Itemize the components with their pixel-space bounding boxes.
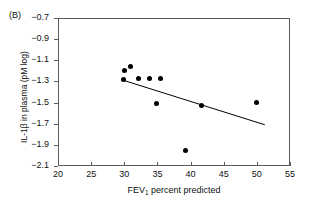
regression-line xyxy=(0,0,330,203)
data-point xyxy=(122,68,127,73)
data-point xyxy=(128,64,133,69)
data-point xyxy=(136,76,141,81)
data-point xyxy=(147,76,152,81)
data-layer xyxy=(0,0,330,203)
figure-panel-b: (B) IL-1β in plasma (pM log) FEV1 percen… xyxy=(0,0,330,203)
data-point xyxy=(254,100,259,105)
data-point xyxy=(158,76,163,81)
data-point xyxy=(121,77,126,82)
data-point xyxy=(154,101,159,106)
data-point xyxy=(199,103,204,108)
data-point xyxy=(183,148,188,153)
